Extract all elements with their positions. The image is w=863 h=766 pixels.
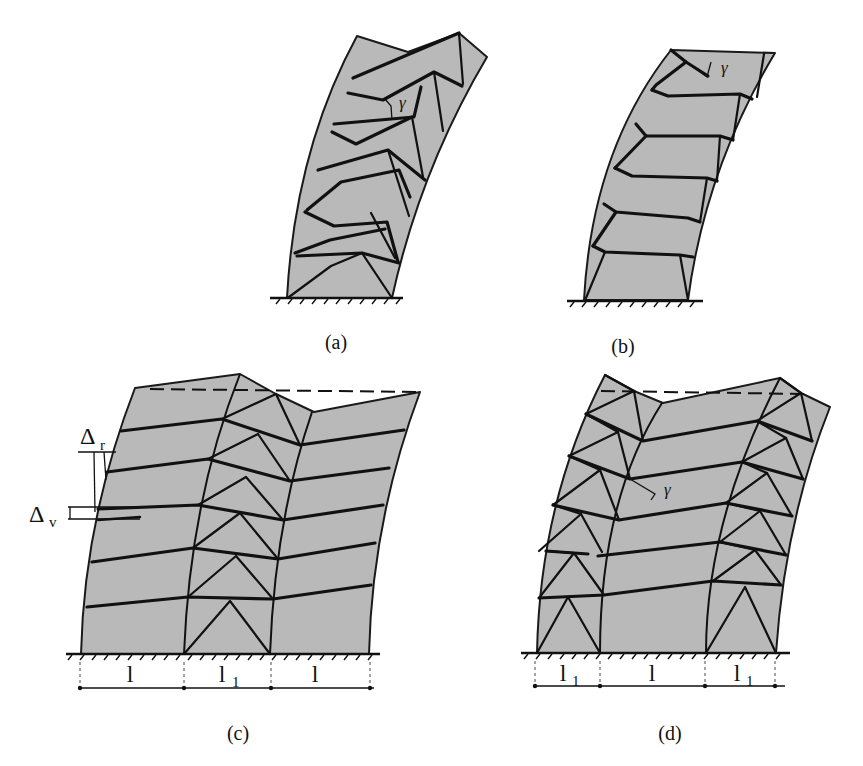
panel-c-dim-1-label: l [127, 661, 134, 687]
panel-c-caption: (c) [227, 722, 249, 745]
panel-d: γ l 1 l l 1 (d) [521, 375, 830, 745]
panel-b: γ (b) [567, 50, 775, 358]
panel-c-delta-r-label: Δ [80, 423, 95, 449]
panel-c-dimension-line [78, 662, 374, 690]
panel-d-ground-hatch [524, 654, 780, 659]
panel-c-dim-2-sub: 1 [232, 674, 240, 690]
panel-c: Δ r Δ v [29, 374, 420, 745]
panel-c-ground-hatch [68, 655, 372, 660]
panel-c-delta-v-sub: v [49, 514, 57, 530]
panel-c-dim-3-label: l [312, 661, 319, 687]
panel-c-delta-v-label: Δ [29, 501, 44, 527]
panel-c-dim-2-label: l [219, 661, 226, 687]
panel-d-caption: (d) [658, 722, 681, 745]
figure-canvas: γ (a) [0, 0, 863, 766]
panel-d-dim-2-label: l [649, 660, 656, 686]
panel-a-ground-hatch [276, 299, 400, 304]
panel-d-dim-3-sub: 1 [746, 673, 754, 689]
panel-b-ground-hatch [570, 302, 694, 307]
panel-d-dim-1-sub: 1 [572, 673, 580, 689]
panel-b-wall [584, 50, 775, 300]
panel-d-dim-3-label: l [734, 660, 741, 686]
panel-b-caption: (b) [611, 335, 634, 358]
panel-a-caption: (a) [325, 331, 347, 354]
panel-d-dim-1-label: l [560, 660, 567, 686]
panel-c-delta-r-sub: r [100, 437, 105, 453]
panel-a: γ (a) [270, 33, 487, 354]
